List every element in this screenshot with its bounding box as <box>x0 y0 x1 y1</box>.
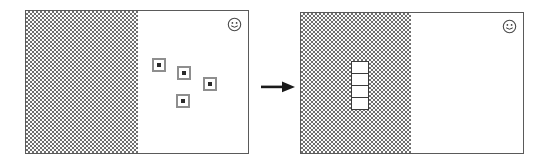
panel-before: Before <box>25 10 249 154</box>
marker-ring <box>154 60 164 70</box>
marker-ring <box>205 79 215 89</box>
figure-title: Scattered items collected into an ordere… <box>0 0 1 1</box>
marker-center-dot <box>208 82 212 86</box>
marker-ring <box>178 96 188 106</box>
panel-after: After <box>300 12 524 154</box>
marker-2[interactable] <box>177 66 191 80</box>
marker-1[interactable] <box>152 58 166 72</box>
marker-4[interactable] <box>176 94 190 108</box>
marker-center-dot <box>182 71 186 75</box>
cell-stack[interactable] <box>351 61 369 110</box>
hatched-region-before <box>26 11 138 153</box>
figure-canvas: Before → After Scattered <box>0 0 547 166</box>
stack-cell-4[interactable] <box>351 97 369 110</box>
marker-center-dot <box>181 99 185 103</box>
transition-arrow-symbol: → <box>295 79 296 80</box>
smiley-icon <box>227 17 242 32</box>
marker-ring <box>179 68 189 78</box>
marker-center-dot <box>157 63 161 67</box>
transition-arrow: → <box>261 79 295 91</box>
marker-3[interactable] <box>203 77 217 91</box>
smiley-icon <box>502 19 517 34</box>
